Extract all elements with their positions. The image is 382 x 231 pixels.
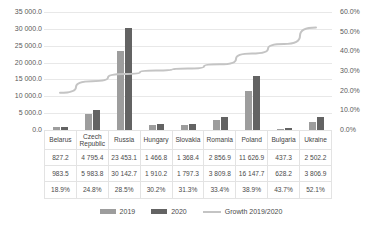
table-header-cell: Czech Republic: [76, 131, 108, 150]
chart-legend: 2019 2020 Growth 2019/2020: [0, 208, 382, 215]
table-cell: 3 806.9: [300, 166, 332, 182]
y-right-tick-label: 50.0%: [336, 28, 382, 36]
table-header-cell: Romania: [204, 131, 236, 150]
table-cell: 28.5%: [108, 182, 140, 199]
combo-chart: 0.05 000.010 000.015 000.020 000.025 000…: [0, 0, 382, 231]
table-cell: 1 910.2: [140, 166, 172, 182]
line-swatch-growth-icon: [203, 211, 221, 213]
table-cell: 983.5: [45, 166, 77, 182]
table-header-cell: Bulgaria: [268, 131, 300, 150]
table-cell: 16 147.7: [236, 166, 268, 182]
table-header-cell: Ukraine: [300, 131, 332, 150]
y-left-tick-label: 15 000.0: [0, 75, 46, 83]
table-row: 827.24 795.423 453.11 466.81 368.42 856.…: [45, 150, 332, 166]
table-cell: 38.9%: [236, 182, 268, 199]
bar-swatch-2020-icon: [151, 209, 167, 214]
table-header-cell: Poland: [236, 131, 268, 150]
table-row: 983.55 983.830 142.71 910.21 797.33 809.…: [45, 166, 332, 182]
y-left-tick-label: 0.0: [0, 126, 46, 134]
table-header-cell: Hungary: [140, 131, 172, 150]
data-table: BelarusCzech RepublicRussiaHungarySlovak…: [44, 130, 332, 199]
table-header-cell: Belarus: [45, 131, 77, 150]
y-left-tick-label: 5 000.0: [0, 109, 46, 117]
table-cell: 33.4%: [204, 182, 236, 199]
table-cell: 43.7%: [268, 182, 300, 199]
legend-item-2020[interactable]: 2020: [151, 208, 187, 215]
table-cell: 1 797.3: [172, 166, 204, 182]
table-cell: 827.2: [45, 150, 77, 166]
legend-label-2019: 2019: [120, 208, 136, 215]
table-cell: 5 983.8: [76, 166, 108, 182]
legend-item-growth[interactable]: Growth 2019/2020: [203, 208, 283, 215]
y-left-tick-label: 35 000.0: [0, 8, 46, 16]
bar-swatch-2019-icon: [100, 209, 116, 214]
legend-label-2020: 2020: [171, 208, 187, 215]
table-cell: 2 502.2: [300, 150, 332, 166]
plot-area: [44, 12, 332, 130]
growth-line-path: [60, 28, 316, 93]
y-left-tick-label: 25 000.0: [0, 42, 46, 50]
table-row: BelarusCzech RepublicRussiaHungarySlovak…: [45, 131, 332, 150]
table-cell: 23 453.1: [108, 150, 140, 166]
table-cell: 30 142.7: [108, 166, 140, 182]
y-right-tick-label: 0.0%: [336, 126, 382, 134]
table-cell: 628.2: [268, 166, 300, 182]
y-right-tick-label: 60.0%: [336, 8, 382, 16]
table-cell: 18.9%: [45, 182, 77, 199]
table-cell: 2 856.9: [204, 150, 236, 166]
y-right-tick-label: 30.0%: [336, 67, 382, 75]
table-cell: 31.3%: [172, 182, 204, 199]
y-left-tick-label: 20 000.0: [0, 59, 46, 67]
table-cell: 437.3: [268, 150, 300, 166]
table-cell: 30.2%: [140, 182, 172, 199]
table-cell: 1 466.8: [140, 150, 172, 166]
table-header-cell: Slovakia: [172, 131, 204, 150]
legend-label-growth: Growth 2019/2020: [225, 208, 283, 215]
table-cell: 24.8%: [76, 182, 108, 199]
table-row: 18.9%24.8%28.5%30.2%31.3%33.4%38.9%43.7%…: [45, 182, 332, 199]
y-right-tick-label: 10.0%: [336, 106, 382, 114]
y-left-tick-label: 30 000.0: [0, 25, 46, 33]
growth-line: [44, 12, 332, 130]
y-right-tick-label: 40.0%: [336, 47, 382, 55]
table-cell: 1 368.4: [172, 150, 204, 166]
table-cell: 11 626.9: [236, 150, 268, 166]
y-right-tick-label: 20.0%: [336, 87, 382, 95]
table-cell: 3 809.8: [204, 166, 236, 182]
table-cell: 52.1%: [300, 182, 332, 199]
table-cell: 4 795.4: [76, 150, 108, 166]
y-left-tick-label: 10 000.0: [0, 92, 46, 100]
legend-item-2019[interactable]: 2019: [100, 208, 136, 215]
table-header-cell: Russia: [108, 131, 140, 150]
